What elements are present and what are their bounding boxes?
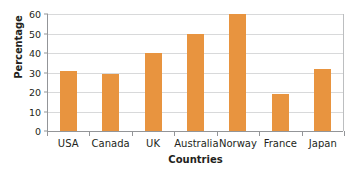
- x-tick-label-usa: USA: [47, 137, 89, 151]
- bar-france[interactable]: [272, 94, 289, 131]
- x-tick-mark: [217, 131, 218, 136]
- bar-slot: [259, 14, 301, 131]
- bar-norway[interactable]: [229, 14, 246, 131]
- x-axis-title: Countries: [47, 154, 344, 165]
- bar-slot: [47, 14, 89, 131]
- bar-usa[interactable]: [60, 71, 77, 131]
- x-tick-mark: [47, 131, 48, 136]
- bar-slot: [302, 14, 344, 131]
- x-tick-label-australia: Australia: [174, 137, 216, 151]
- x-tick-label-norway: Norway: [217, 137, 259, 151]
- bar-australia[interactable]: [187, 34, 204, 132]
- gridline-0: [48, 131, 343, 132]
- x-tick-mark: [132, 131, 133, 136]
- x-tick-mark: [174, 131, 175, 136]
- x-tick-label-uk: UK: [132, 137, 174, 151]
- bar-slot: [174, 14, 216, 131]
- bars-layer: [47, 14, 344, 131]
- y-axis-title: Percentage: [12, 0, 26, 97]
- bar-slot: [217, 14, 259, 131]
- bar-slot: [132, 14, 174, 131]
- x-tick-label-france: France: [259, 137, 301, 151]
- bar-japan[interactable]: [314, 69, 331, 131]
- x-tick-mark: [89, 131, 90, 136]
- x-tick-mark: [259, 131, 260, 136]
- bar-uk[interactable]: [145, 53, 162, 131]
- x-tick-label-japan: Japan: [302, 137, 344, 151]
- x-tick-label-canada: Canada: [89, 137, 131, 151]
- x-tick-mark: [344, 131, 345, 136]
- bar-chart: Percentage 0102030405060 USACanadaUKAust…: [0, 0, 361, 181]
- x-tick-mark: [302, 131, 303, 136]
- bar-slot: [89, 14, 131, 131]
- bar-canada[interactable]: [102, 74, 119, 131]
- x-axis-tick-labels: USACanadaUKAustraliaNorwayFranceJapan: [47, 137, 344, 153]
